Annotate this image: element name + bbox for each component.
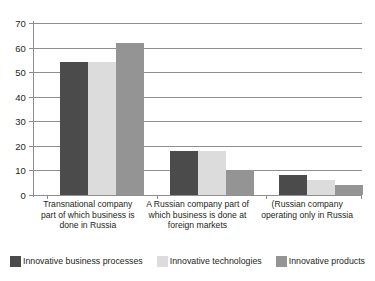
x-axis-label-3-line-2: operating only in Russia — [252, 210, 362, 221]
legend-swatch-icon-1 — [10, 256, 21, 267]
bar-1-3 — [116, 43, 144, 195]
legend-label-3: Innovative products — [289, 256, 365, 267]
y-tick-label-40: 40 — [15, 91, 26, 102]
y-tick-label-10: 10 — [15, 165, 26, 176]
y-axis-tick-labels: 010203040506070 — [0, 0, 30, 210]
x-axis-label-3: (Russian companyoperating only in Russia — [252, 199, 362, 220]
legend-label-2: Innovative technologies — [170, 256, 262, 267]
bar-3-3 — [335, 185, 363, 195]
y-tick-mark-70 — [29, 23, 33, 24]
x-axis-label-2-line-1: A Russian company part of — [143, 199, 253, 210]
x-axis-label-1-line-2: part of which business is — [33, 210, 143, 221]
legend-swatch-icon-2 — [157, 256, 168, 267]
bar-3-2 — [307, 180, 335, 195]
legend-swatch-icon-3 — [276, 256, 287, 267]
bar-3-1 — [279, 175, 307, 195]
gridline-70 — [33, 23, 362, 24]
y-tick-mark-30 — [29, 121, 33, 122]
plot-area: 010203040506070 — [0, 0, 375, 210]
legend-item-2[interactable]: Innovative technologies — [157, 256, 262, 267]
gridline-0 — [33, 195, 362, 196]
y-tick-label-50: 50 — [15, 67, 26, 78]
bar-1-2 — [88, 62, 116, 195]
x-axis-label-2: A Russian company part ofwhich business … — [143, 199, 253, 231]
bar-2-3 — [226, 170, 254, 195]
y-tick-mark-0 — [29, 195, 33, 196]
y-tick-label-60: 60 — [15, 42, 26, 53]
gridline-60 — [33, 48, 362, 49]
x-axis-label-3-line-1: (Russian company — [252, 199, 362, 210]
bar-chart: 010203040506070 Transnational companypar… — [0, 0, 375, 281]
y-tick-mark-50 — [29, 72, 33, 73]
y-tick-label-20: 20 — [15, 140, 26, 151]
x-axis-label-1: Transnational companypart of which busin… — [33, 199, 143, 231]
chart-legend: Innovative business processesInnovative … — [0, 253, 375, 269]
y-tick-mark-10 — [29, 170, 33, 171]
bar-2-1 — [170, 151, 198, 195]
y-tick-mark-20 — [29, 146, 33, 147]
x-axis-category-labels: Transnational companypart of which busin… — [33, 199, 362, 241]
y-tick-mark-40 — [29, 97, 33, 98]
bar-2-2 — [198, 151, 226, 195]
legend-label-1: Innovative business processes — [23, 256, 143, 267]
legend-item-3[interactable]: Innovative products — [276, 256, 365, 267]
bar-1-1 — [60, 62, 88, 195]
x-axis-label-2-line-2: which business is done at — [143, 210, 253, 221]
y-tick-label-70: 70 — [15, 18, 26, 29]
x-axis-label-1-line-3: done in Russia — [33, 220, 143, 231]
x-axis-label-1-line-1: Transnational company — [33, 199, 143, 210]
plot-inner — [33, 23, 362, 195]
y-tick-mark-60 — [29, 48, 33, 49]
y-tick-label-30: 30 — [15, 116, 26, 127]
legend-item-1[interactable]: Innovative business processes — [10, 256, 143, 267]
x-axis-label-2-line-3: foreign markets — [143, 220, 253, 231]
y-tick-label-0: 0 — [21, 190, 26, 201]
